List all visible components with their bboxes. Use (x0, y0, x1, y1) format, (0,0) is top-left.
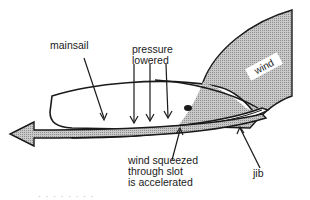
sail-slot-diagram: mainsail pressure lowered wind wind sque… (0, 0, 310, 200)
jib-label: jib (253, 168, 264, 179)
pressure-lowered-label: pressure lowered (132, 44, 173, 66)
partial-caption: · · · · · · · · (38, 191, 94, 200)
wind-squeezed-label: wind squeezed through slot is accelerate… (128, 155, 198, 188)
jib-leader (240, 128, 260, 168)
mainsail-label: mainsail (50, 40, 89, 51)
